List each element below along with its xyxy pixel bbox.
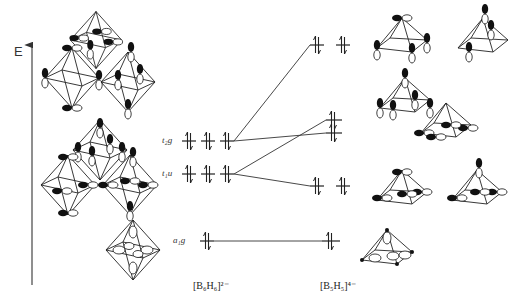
mo-diagram: E t₂g t₁u a₁g [B₆H₆]²⁻ [B₅H₅]⁴⁻	[0, 0, 520, 308]
symmetry-label-t2g: t₂g	[162, 135, 172, 145]
octahedron-orbitals	[41, 11, 160, 280]
b6h6-level-t2g	[182, 132, 234, 150]
b5h5-level-a-middle	[326, 124, 342, 142]
b5h5-level-e-upper	[310, 36, 350, 54]
b6h6-level-a1g	[200, 232, 214, 250]
symmetry-label-t1u: t₁u	[162, 168, 172, 178]
pyramid-orbitals	[360, 4, 508, 266]
b5h5-level-e-lower	[310, 177, 350, 195]
b6h6-level-t1u	[182, 165, 234, 183]
formula-b5h5: [B₅H₅]⁴⁻	[320, 280, 356, 291]
energy-axis-label: E	[14, 44, 23, 59]
b5h5-level-a1	[322, 232, 340, 250]
correlation-lines	[214, 45, 326, 241]
formula-b6h6: [B₆H₆]²⁻	[193, 280, 229, 291]
diagram-canvas	[0, 0, 520, 308]
symmetry-label-a1g: a₁g	[173, 235, 185, 245]
